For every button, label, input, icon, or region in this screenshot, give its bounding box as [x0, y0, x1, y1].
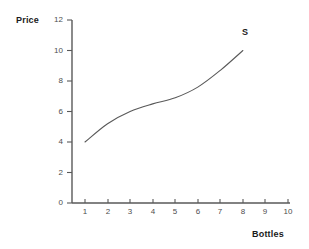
plot-area	[0, 0, 309, 249]
supply-curve-chart: Price Bottles 12 10 8 6 4 2 0 1 2 3 4 5 …	[0, 0, 309, 249]
supply-curve-line	[85, 51, 243, 143]
y-axis-ticks	[67, 20, 72, 203]
